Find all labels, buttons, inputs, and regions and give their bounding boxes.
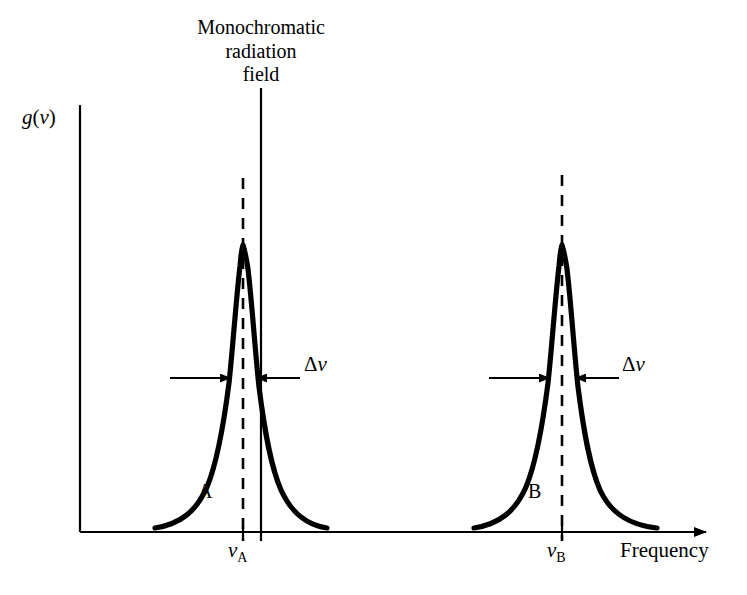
y-axis-label-nu: v <box>40 105 49 129</box>
delta-symbol-b: Δ <box>622 352 636 376</box>
figure-title-line-2: radiation <box>0 40 522 64</box>
figure-title-line-3: field <box>0 63 522 87</box>
delta-nu-label-a: Δv <box>304 352 327 377</box>
y-axis-label-g: g <box>22 105 33 129</box>
figure-title-line-1: Monochromatic <box>0 16 522 40</box>
x-tick-label-b-nu: v <box>547 538 556 562</box>
x-tick-label-a: vA <box>228 538 247 567</box>
delta-nu-a-nu: v <box>318 352 327 376</box>
lineshape-curve-a <box>155 245 327 528</box>
delta-nu-b-nu: v <box>636 352 645 376</box>
x-tick-label-a-nu: v <box>228 538 237 562</box>
delta-nu-label-b: Δv <box>622 352 645 377</box>
x-axis-label: Frequency <box>620 538 709 563</box>
lineshape-curve-b <box>474 245 657 528</box>
curve-label-a: A <box>198 480 212 504</box>
y-axis-label: g(v) <box>22 105 56 130</box>
plot-svg <box>0 0 747 595</box>
figure-canvas: Monochromatic radiation field g(v) Frequ… <box>0 0 747 595</box>
x-tick-label-a-sub: A <box>237 550 247 565</box>
y-axis-label-close-paren: ) <box>49 105 56 129</box>
figure-title: Monochromatic radiation field <box>0 16 522 87</box>
delta-symbol-a: Δ <box>304 352 318 376</box>
x-tick-label-b: vB <box>547 538 566 567</box>
curve-label-b: B <box>528 480 541 504</box>
x-tick-label-b-sub: B <box>556 550 565 565</box>
y-axis-label-open-paren: ( <box>33 105 40 129</box>
